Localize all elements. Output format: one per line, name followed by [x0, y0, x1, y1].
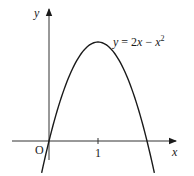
- x-tick-label-1: 1: [95, 146, 101, 160]
- x-axis-label: x: [171, 145, 178, 159]
- equation-label: y = 2x − x2: [112, 34, 165, 49]
- y-axis-label: y: [33, 6, 40, 20]
- origin-label: O: [35, 143, 44, 157]
- function-graph: y x O 1 y = 2x − x2: [0, 0, 194, 176]
